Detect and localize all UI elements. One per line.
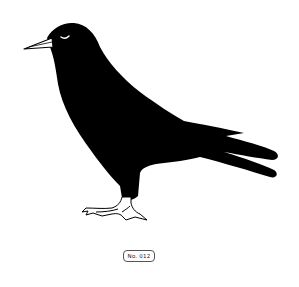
crow-beak: [24, 38, 53, 49]
specimen-number-tag: No. 012: [123, 250, 155, 262]
crow-feet: [82, 197, 147, 220]
crow-body: [47, 23, 278, 200]
specimen-number-text: No. 012: [128, 253, 151, 259]
crow-illustration: [0, 0, 299, 287]
